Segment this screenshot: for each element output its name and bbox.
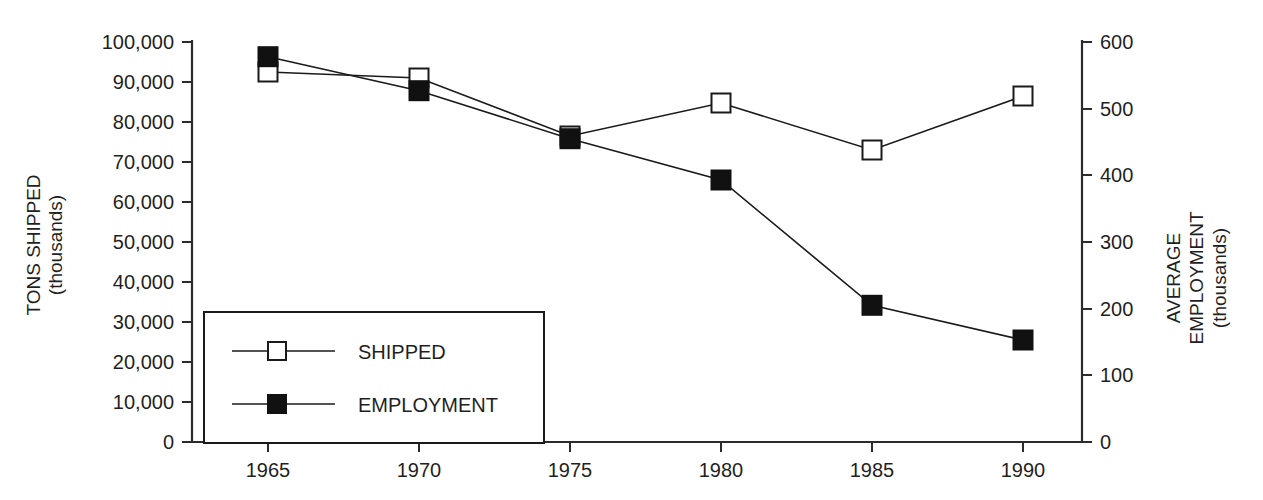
left-tick-label: 50,000 bbox=[113, 231, 174, 253]
right-axis-title-line2: EMPLOYMENT bbox=[1186, 211, 1207, 344]
x-tick-label: 1980 bbox=[699, 459, 744, 481]
data-point-marker bbox=[561, 129, 580, 148]
data-point-marker bbox=[863, 296, 882, 315]
legend-label-employment: EMPLOYMENT bbox=[358, 394, 498, 416]
right-tick-label: 100 bbox=[1100, 364, 1133, 386]
right-axis-tick-labels: 0 100 200 300 400 500 600 bbox=[1100, 31, 1133, 453]
right-tick-label: 500 bbox=[1100, 98, 1133, 120]
left-tick-label: 20,000 bbox=[113, 351, 174, 373]
right-tick-label: 600 bbox=[1100, 31, 1133, 53]
filled-square-icon bbox=[268, 395, 286, 413]
legend-item-employment[interactable]: EMPLOYMENT bbox=[232, 394, 498, 416]
data-point-marker bbox=[712, 171, 731, 190]
series-employment-line bbox=[268, 57, 1023, 340]
x-tick-label: 1975 bbox=[548, 459, 593, 481]
data-point-marker bbox=[259, 47, 278, 66]
left-tick-label: 80,000 bbox=[113, 111, 174, 133]
left-axis-title-line2: (thousands) bbox=[45, 195, 66, 295]
chart-container: 0 10,000 20,000 30,000 40,000 50,000 60,… bbox=[0, 0, 1263, 500]
right-tick-label: 300 bbox=[1100, 231, 1133, 253]
legend-label-shipped: SHIPPED bbox=[358, 341, 446, 363]
data-point-marker bbox=[410, 81, 429, 100]
series-shipped bbox=[259, 63, 1033, 160]
x-axis-tick-labels: 1965 1970 1975 1980 1985 1990 bbox=[246, 459, 1046, 481]
chart-legend: SHIPPED EMPLOYMENT bbox=[204, 312, 544, 443]
left-axis-title: TONS SHIPPED (thousands) bbox=[23, 174, 66, 315]
series-employment-markers bbox=[259, 47, 1033, 349]
data-point-marker bbox=[712, 94, 731, 113]
right-axis-ticks bbox=[1082, 42, 1092, 442]
data-point-marker bbox=[1014, 87, 1033, 106]
x-tick-label: 1990 bbox=[1001, 459, 1046, 481]
left-tick-label: 70,000 bbox=[113, 151, 174, 173]
right-tick-label: 0 bbox=[1100, 431, 1111, 453]
open-square-icon bbox=[268, 342, 286, 360]
right-axis-title-line1: AVERAGE bbox=[1163, 233, 1184, 323]
series-shipped-line bbox=[268, 72, 1023, 150]
right-axis-title-line3: (thousands) bbox=[1209, 228, 1230, 328]
data-point-marker bbox=[863, 141, 882, 160]
legend-box bbox=[204, 312, 544, 443]
left-axis-tick-labels: 0 10,000 20,000 30,000 40,000 50,000 60,… bbox=[102, 31, 174, 453]
series-employment bbox=[259, 47, 1033, 349]
left-tick-label: 0 bbox=[163, 431, 174, 453]
left-tick-label: 10,000 bbox=[113, 391, 174, 413]
line-chart: 0 10,000 20,000 30,000 40,000 50,000 60,… bbox=[0, 0, 1263, 500]
left-axis-ticks bbox=[182, 42, 192, 442]
left-tick-label: 90,000 bbox=[113, 71, 174, 93]
x-tick-label: 1965 bbox=[246, 459, 291, 481]
left-tick-label: 30,000 bbox=[113, 311, 174, 333]
data-point-marker bbox=[1014, 331, 1033, 350]
left-tick-label: 40,000 bbox=[113, 271, 174, 293]
right-tick-label: 400 bbox=[1100, 164, 1133, 186]
left-axis-title-line1: TONS SHIPPED bbox=[23, 174, 44, 315]
right-axis-title: AVERAGE EMPLOYMENT (thousands) bbox=[1163, 211, 1230, 344]
series-shipped-markers bbox=[259, 63, 1033, 160]
left-tick-label: 100,000 bbox=[102, 31, 174, 53]
left-tick-label: 60,000 bbox=[113, 191, 174, 213]
x-tick-label: 1985 bbox=[850, 459, 895, 481]
right-tick-label: 200 bbox=[1100, 298, 1133, 320]
x-tick-label: 1970 bbox=[397, 459, 442, 481]
